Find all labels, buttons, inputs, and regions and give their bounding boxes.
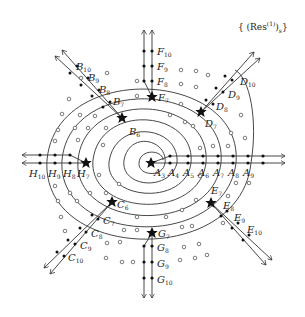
label-g10: G10 bbox=[157, 274, 173, 286]
label-b9: B9 bbox=[87, 72, 99, 84]
label-f8: F8 bbox=[156, 76, 168, 88]
label-c8: C8 bbox=[91, 228, 103, 240]
label-g7: G7 bbox=[158, 228, 170, 240]
label-g8: G8 bbox=[157, 242, 169, 254]
label-d7: D7 bbox=[204, 118, 217, 130]
strand-h bbox=[22, 153, 86, 164]
strand-e bbox=[211, 203, 272, 265]
label-e8: E8 bbox=[222, 200, 234, 212]
strand-a bbox=[151, 154, 285, 164]
spiral-diagram: A3 A4 A5 A6 A7 A8 A9 H10 H9 H8 H7 F10 F9… bbox=[0, 0, 305, 317]
label-a3: A3 bbox=[153, 167, 165, 179]
label-c7: C7 bbox=[103, 215, 115, 227]
label-c9: C9 bbox=[80, 240, 92, 252]
label-b7: B7 bbox=[112, 96, 124, 108]
label-e10: E10 bbox=[246, 224, 262, 236]
label-d10: D10 bbox=[239, 76, 256, 88]
label-h9: H9 bbox=[47, 168, 61, 180]
label-f7: F7 bbox=[157, 92, 169, 104]
label-d9: D9 bbox=[227, 89, 240, 101]
label-c10: C10 bbox=[68, 252, 83, 264]
label-g9: G9 bbox=[157, 258, 169, 270]
label-e7: E7 bbox=[210, 185, 222, 197]
label-h10: H10 bbox=[28, 168, 46, 180]
star-h7 bbox=[80, 157, 91, 168]
strand-f bbox=[142, 30, 153, 97]
label-f10: F10 bbox=[156, 46, 172, 58]
label-a5: A5 bbox=[182, 167, 194, 179]
star-f7 bbox=[146, 91, 157, 102]
label-a6: A6 bbox=[197, 167, 209, 179]
label-d8: D8 bbox=[215, 101, 228, 113]
label-c6: C6 bbox=[117, 199, 129, 211]
label-h8: H8 bbox=[62, 168, 76, 180]
strand-b bbox=[55, 50, 122, 118]
strand-g bbox=[142, 233, 153, 298]
label-a9: A9 bbox=[242, 167, 254, 179]
label-a7: A7 bbox=[212, 167, 224, 179]
label-f9: F9 bbox=[156, 61, 168, 73]
label-a8: A8 bbox=[227, 167, 239, 179]
label-b6: B6 bbox=[128, 126, 140, 138]
label-h7: H7 bbox=[76, 168, 90, 180]
label-b8: B8 bbox=[98, 84, 110, 96]
label-e9: E9 bbox=[233, 212, 245, 224]
label-a4: A4 bbox=[167, 167, 179, 179]
